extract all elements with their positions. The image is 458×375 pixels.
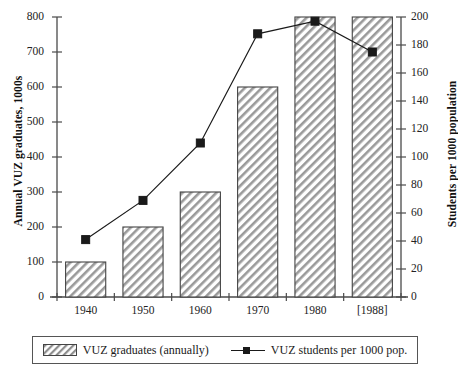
legend-label: VUZ graduates (annually)	[83, 343, 209, 358]
bar	[238, 87, 278, 297]
y-axis-right-tick-label: 100	[411, 150, 447, 162]
x-axis-tick-label: [1988]	[337, 304, 407, 316]
y-axis-left-tick-label: 500	[8, 115, 44, 127]
y-axis-right-tick-label: 0	[411, 290, 447, 302]
line-marker	[196, 139, 204, 147]
line-marker	[368, 48, 376, 56]
y-axis-right-tick-label: 200	[411, 10, 447, 22]
y-axis-right-tick-label: 40	[411, 234, 447, 246]
y-axis-left-tick-label: 700	[8, 45, 44, 57]
legend-entry: VUZ graduates (annually)	[43, 343, 209, 358]
legend-label: VUZ students per 1000 pop.	[271, 343, 407, 358]
bar	[180, 192, 220, 297]
legend-hatch-swatch-icon	[43, 344, 77, 356]
y-axis-left-tick-label: 300	[8, 185, 44, 197]
y-axis-right-tick-label: 180	[411, 38, 447, 50]
bar	[295, 17, 335, 297]
y-axis-left-tick-label: 800	[8, 10, 44, 22]
y-axis-left-tick-label: 600	[8, 80, 44, 92]
y-axis-right-tick-label: 140	[411, 94, 447, 106]
y-axis-right-tick-label: 120	[411, 122, 447, 134]
y-axis-left-tick-label: 400	[8, 150, 44, 162]
y-axis-right-tick-label: 160	[411, 66, 447, 78]
y-axis-right-tick-label: 80	[411, 178, 447, 190]
legend-entry: VUZ students per 1000 pop.	[231, 343, 407, 358]
y-axis-left-tick-label: 0	[8, 290, 44, 302]
line-marker	[139, 196, 147, 204]
line-marker	[254, 30, 262, 38]
legend-entries: VUZ graduates (annually)VUZ students per…	[33, 337, 417, 363]
bar	[66, 262, 106, 297]
line-marker	[311, 17, 319, 25]
bar	[123, 227, 163, 297]
y-axis-left-tick-label: 100	[8, 255, 44, 267]
y-axis-right-tick-label: 60	[411, 206, 447, 218]
legend-line-marker-icon	[231, 344, 265, 356]
y-axis-right-tick-label: 20	[411, 262, 447, 274]
line-marker	[82, 236, 90, 244]
chart-legend: VUZ graduates (annually)VUZ students per…	[32, 336, 418, 364]
y-axis-left-tick-label: 200	[8, 220, 44, 232]
bar	[352, 17, 392, 297]
